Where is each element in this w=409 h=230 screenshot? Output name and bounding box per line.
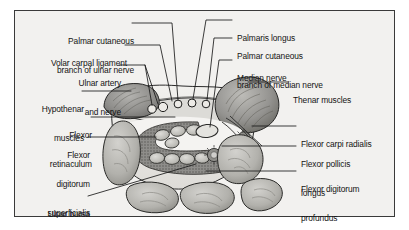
- palmar-cut-ulnar-circle: [174, 100, 182, 108]
- label-line: digitorum: [12, 180, 90, 190]
- carpal-tunnel-figure: Palmar cutaneous branch of ulnar nerve V…: [0, 0, 409, 230]
- palmar-cut-median-circle: [202, 100, 210, 108]
- carpal-bone-dorsal-far-right: [241, 179, 282, 211]
- label-line: profundus: [301, 214, 359, 224]
- label-line: Median nerve: [237, 74, 287, 84]
- palmaris-longus-circle: [188, 99, 196, 107]
- label-line: Flexor: [12, 151, 90, 161]
- label-thenar-muscles: Thenar muscles: [293, 77, 351, 125]
- ulnar-artery-circle: [148, 105, 156, 113]
- label-line: Thenar muscles: [293, 96, 351, 106]
- ulnar-nerve-circle: [158, 102, 167, 111]
- label-flexor-digitorum-profundus: Flexor digitorum profundus: [301, 166, 359, 230]
- label-median-nerve: Median nerve: [237, 55, 287, 103]
- carpal-bone-dorsal-right: [180, 182, 234, 213]
- label-line: Flexor digitorum: [301, 185, 359, 195]
- carpal-bone-dorsal-left: [126, 182, 178, 213]
- label-ulnar-bursa: Ulnar bursa: [12, 191, 90, 230]
- label-line: Ulnar bursa: [12, 210, 90, 220]
